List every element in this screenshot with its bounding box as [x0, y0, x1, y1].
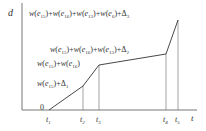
svg-text:t1: t1 — [46, 115, 51, 125]
tick-t2: t2 — [80, 115, 85, 125]
y-axis-label: d — [8, 7, 14, 18]
label-t2: w(e15)+Δ1 — [37, 79, 69, 89]
origin-label: 0 — [40, 103, 44, 112]
tick-t1: t1 — [46, 115, 51, 125]
svg-text:w(e15)+w(e16): w(e15)+w(e16) — [37, 59, 80, 69]
svg-text:t2: t2 — [80, 115, 85, 125]
tick-t5: t5 — [175, 115, 180, 125]
tick-t3: t3 — [96, 115, 101, 125]
svg-text:w(e15)+Δ1: w(e15)+Δ1 — [37, 79, 69, 89]
svg-text:t4: t4 — [163, 115, 168, 125]
label-t3: w(e15)+w(e16) — [37, 59, 80, 69]
piecewise-linear-diagram: d t 0 t1 t2 t3 t4 t5 w(e15)+w(e16)+w(e13… — [0, 0, 206, 131]
x-axis-label: t — [191, 113, 194, 123]
label-t4: w(e15)+w(e16)+w(e13)+Δ2 — [50, 45, 129, 55]
tick-t4: t4 — [163, 115, 168, 125]
svg-text:w(e15)+w(e16)+w(e13)+w(e6)+Δ3: w(e15)+w(e16)+w(e13)+w(e6)+Δ3 — [29, 9, 130, 19]
svg-text:t5: t5 — [175, 115, 180, 125]
label-t5: w(e15)+w(e16)+w(e13)+w(e6)+Δ3 — [29, 9, 130, 19]
svg-text:t3: t3 — [96, 115, 101, 125]
svg-text:w(e15)+w(e16)+w(e13)+Δ2: w(e15)+w(e16)+w(e13)+Δ2 — [50, 45, 129, 55]
